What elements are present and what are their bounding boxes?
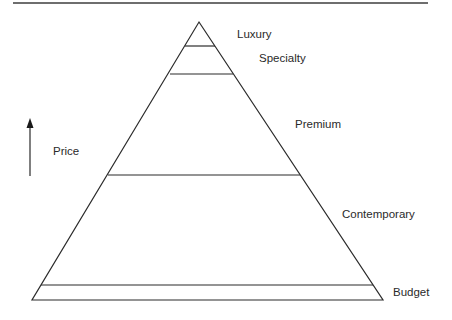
level-label-contemporary: Contemporary — [342, 209, 415, 221]
level-label-premium: Premium — [295, 119, 341, 131]
pyramid-outline — [32, 22, 383, 300]
price-arrow-icon — [27, 118, 34, 176]
axis-label-price: Price — [53, 146, 79, 158]
level-label-budget: Budget — [393, 287, 429, 299]
level-label-luxury: Luxury — [237, 29, 272, 41]
level-label-specialty: Specialty — [259, 53, 306, 65]
pyramid-diagram — [0, 0, 452, 320]
